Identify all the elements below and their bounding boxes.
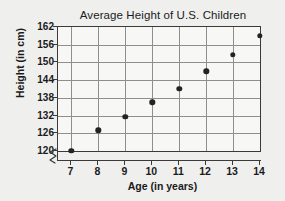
data-point xyxy=(150,100,155,105)
data-point xyxy=(203,69,208,74)
y-axis-tick-mark xyxy=(53,132,57,133)
y-axis-tick-label: 144 xyxy=(28,74,54,85)
plot-area xyxy=(57,26,261,152)
x-axis-tick-label: 8 xyxy=(87,165,107,177)
x-axis-tick-label: 12 xyxy=(195,165,215,177)
data-point xyxy=(96,128,101,133)
y-axis-title: Height (in cm) xyxy=(14,8,26,118)
y-axis-tick-label: 156 xyxy=(28,38,54,49)
gridline-horizontal xyxy=(58,62,260,63)
x-axis-tick-label: 7 xyxy=(60,165,80,177)
y-axis-tick-mark xyxy=(53,61,57,62)
y-axis-tick-mark xyxy=(53,79,57,80)
data-point xyxy=(257,33,262,38)
x-axis-tick-mark xyxy=(151,161,152,165)
y-axis-tick-label: 150 xyxy=(28,56,54,67)
y-axis-tick-label: 126 xyxy=(28,127,54,138)
x-axis-tick-label: 9 xyxy=(114,165,134,177)
gridline-horizontal xyxy=(58,98,260,99)
gridline-vertical xyxy=(206,27,207,151)
x-axis-tick-mark xyxy=(70,161,71,165)
gridline-horizontal xyxy=(58,116,260,117)
x-axis-tick-mark xyxy=(178,161,179,165)
gridline-horizontal xyxy=(58,133,260,134)
x-axis-tick-mark xyxy=(205,161,206,165)
gridline-vertical xyxy=(125,27,126,151)
x-axis-tick-label: 10 xyxy=(141,165,161,177)
gridline-vertical xyxy=(152,27,153,151)
x-axis-tick-mark xyxy=(259,161,260,165)
axis-break-icon xyxy=(44,148,60,164)
y-axis-tick-label: 162 xyxy=(28,21,54,32)
x-axis-tick-mark xyxy=(232,161,233,165)
data-point xyxy=(176,86,181,91)
data-point xyxy=(230,52,235,57)
gridline-vertical xyxy=(233,27,234,151)
x-axis-tick-mark xyxy=(97,161,98,165)
y-axis-tick-marks xyxy=(53,26,57,152)
gridline-horizontal xyxy=(58,45,260,46)
y-axis-tick-label: 132 xyxy=(28,109,54,120)
chart-figure: Average Height of U.S. Children Height (… xyxy=(0,0,285,201)
x-axis-title: Age (in years) xyxy=(55,180,270,192)
y-axis-tick-mark xyxy=(53,26,57,27)
y-axis-tick-mark xyxy=(53,115,57,116)
y-axis-tick-labels: 120126132138144150156162 xyxy=(26,26,54,152)
x-axis-tick-label: 13 xyxy=(222,165,242,177)
y-axis-tick-label: 138 xyxy=(28,91,54,102)
x-axis-spine xyxy=(57,160,261,161)
chart-title: Average Height of U.S. Children xyxy=(58,9,268,21)
gridline-horizontal xyxy=(58,80,260,81)
y-axis-tick-mark xyxy=(53,44,57,45)
x-axis-tick-mark xyxy=(124,161,125,165)
gridline-vertical xyxy=(71,27,72,151)
x-axis-tick-marks xyxy=(57,161,261,165)
data-point xyxy=(123,114,128,119)
y-axis-tick-mark xyxy=(53,97,57,98)
x-axis-tick-label: 11 xyxy=(168,165,188,177)
x-axis-tick-labels: 7891011121314 xyxy=(57,165,261,179)
x-axis-tick-label: 14 xyxy=(249,165,269,177)
data-point xyxy=(69,148,74,153)
